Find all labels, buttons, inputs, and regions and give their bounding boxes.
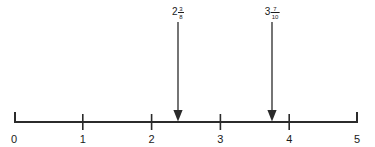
axis-tick-label-5: 5 — [354, 134, 360, 145]
marker-1-denominator: 8 — [178, 13, 183, 20]
marker-2-arrow — [267, 22, 276, 122]
number-line-figure: 0 1 2 3 4 5 2 3 8 3 7 10 — [0, 0, 375, 147]
axis-tick-label-0: 0 — [11, 134, 17, 145]
axis-tick-label-2: 2 — [149, 134, 155, 145]
marker-1-fraction: 3 8 — [178, 6, 184, 20]
marker-1-arrow-head — [173, 110, 182, 122]
marker-2-arrow-head — [267, 110, 276, 122]
axis-tick-label-1: 1 — [80, 134, 86, 145]
marker-1-whole-part: 2 — [172, 6, 178, 18]
marker-1-arrow — [173, 22, 182, 122]
marker-1-mixed-number: 2 3 8 — [172, 6, 184, 20]
axis-tick-label-3: 3 — [217, 134, 223, 145]
marker-2-fraction: 7 10 — [271, 6, 280, 20]
number-line-graphic — [0, 0, 375, 147]
marker-2-whole-part: 3 — [265, 6, 271, 18]
marker-2-denominator: 10 — [271, 13, 280, 20]
marker-2-label: 3 7 10 — [265, 6, 280, 20]
marker-2-mixed-number: 3 7 10 — [265, 6, 280, 20]
axis-tick-label-4: 4 — [286, 134, 292, 145]
marker-1-label: 2 3 8 — [172, 6, 184, 20]
